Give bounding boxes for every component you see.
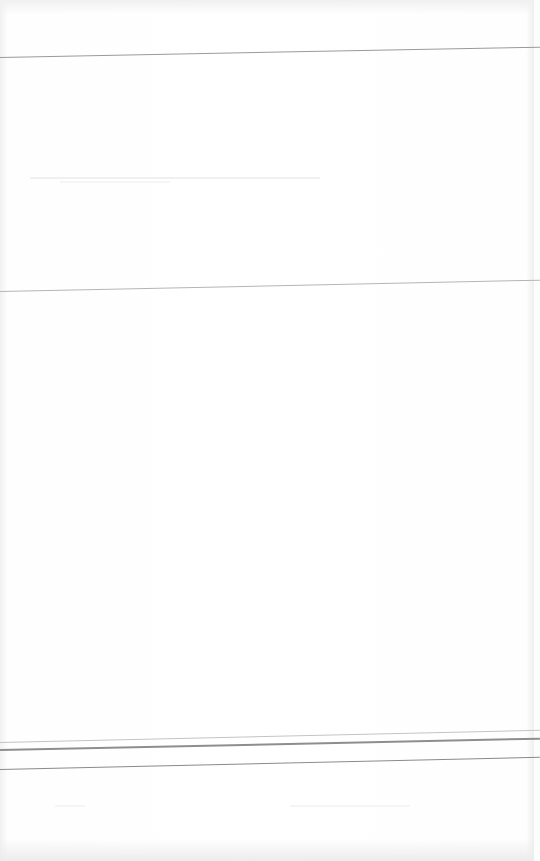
bleed-through-text: [290, 805, 410, 807]
horizontal-rule-middle: [0, 280, 540, 292]
bleed-through-text: [55, 805, 85, 807]
horizontal-rule-bottom-3: [0, 757, 540, 770]
page-top-edge-shadow: [0, 0, 534, 14]
horizontal-rule-top: [0, 47, 540, 58]
page-bottom-edge-shadow: [0, 839, 534, 861]
bleed-through-text: [30, 177, 320, 179]
bleed-through-text: [60, 181, 170, 183]
